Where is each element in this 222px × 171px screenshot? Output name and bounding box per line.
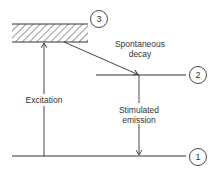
energy-level-diagram: 3 2 1 Excitation Spontaneous decay Stimu… bbox=[0, 0, 222, 171]
stimulated-emission-label-line1: Stimulated bbox=[119, 105, 159, 115]
level-1-number: 1 bbox=[195, 152, 200, 162]
level-1-circle-label: 1 bbox=[190, 149, 207, 166]
level-3-circle-label: 3 bbox=[91, 11, 108, 28]
spontaneous-decay-label-line1: Spontaneous bbox=[115, 39, 165, 49]
excitation-label: Excitation bbox=[26, 95, 63, 105]
level-2-number: 2 bbox=[195, 70, 200, 80]
level-3-number: 3 bbox=[96, 14, 101, 24]
level-3-band bbox=[12, 24, 88, 42]
level-2-circle-label: 2 bbox=[190, 67, 207, 84]
spontaneous-decay-label-line2: decay bbox=[129, 49, 152, 59]
stimulated-emission-label-line2: emission bbox=[122, 115, 156, 125]
